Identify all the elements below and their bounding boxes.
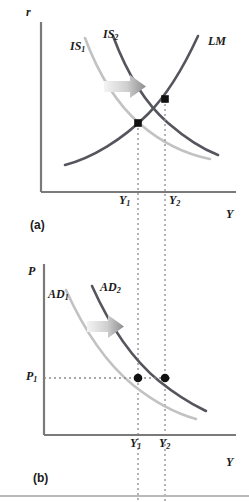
panel-a-xtick-y2: Y2 — [169, 194, 180, 208]
curve-lm — [65, 36, 198, 165]
curve-ad2 — [92, 286, 206, 411]
curve-label-ad2-text: AD — [100, 280, 117, 294]
curve-label-lm: LM — [208, 35, 226, 47]
figure-canvas — [0, 0, 249, 502]
panel-b-equilibrium-2 — [161, 374, 170, 383]
panel-b-x-axis-label: Y — [226, 456, 233, 468]
panel-a-y-axis-label: r — [26, 6, 31, 18]
curve-label-ad2-sub: 2 — [117, 286, 121, 295]
curve-label-ad1-sub: 1 — [65, 293, 69, 302]
panel-b-y-axis-label: P — [28, 265, 35, 277]
panel-b-equilibrium-1 — [134, 374, 143, 383]
panel-a-equilibrium-1 — [134, 119, 142, 127]
panel-b-xtick-y2: Y2 — [159, 437, 170, 451]
panel-a-shift-arrow — [104, 75, 146, 98]
panel-b-xtick-y1: Y1 — [130, 437, 141, 451]
panel-a-tag: (a) — [30, 219, 45, 231]
panel-b-xtick-y1-sub: 1 — [137, 442, 141, 451]
panel-b-ytick-p1: P1 — [26, 370, 37, 384]
panel-a-xtick-y1: Y1 — [119, 194, 130, 208]
panel-a-x-axis-label: Y — [226, 208, 233, 220]
panel-a-xtick-y1-sub: 1 — [126, 199, 130, 208]
curve-label-is2-sub: 2 — [114, 33, 118, 42]
curve-label-is2: IS2 — [103, 28, 118, 42]
curve-label-ad1-text: AD — [48, 287, 65, 301]
panel-a-equilibrium-2 — [161, 95, 169, 103]
curve-label-is1: IS1 — [70, 40, 85, 54]
curve-label-is1-text: IS — [70, 39, 81, 53]
curve-ad1 — [66, 290, 196, 419]
panel-b-ytick-p1-sub: 1 — [33, 375, 37, 384]
panel-b-tag: (b) — [33, 472, 48, 484]
figure-root: r IS1 IS2 LM Y1 Y2 Y (a) P AD1 AD2 P1 Y1… — [0, 0, 249, 502]
curve-label-is1-sub: 1 — [81, 45, 85, 54]
curve-label-is2-text: IS — [103, 27, 114, 41]
panel-a-xtick-y2-sub: 2 — [176, 199, 180, 208]
panel-b-group — [44, 264, 236, 435]
panel-b-xtick-y2-sub: 2 — [166, 442, 170, 451]
curve-label-ad2: AD2 — [100, 281, 121, 295]
curve-label-ad1: AD1 — [48, 288, 69, 302]
panel-a-group — [41, 22, 236, 502]
